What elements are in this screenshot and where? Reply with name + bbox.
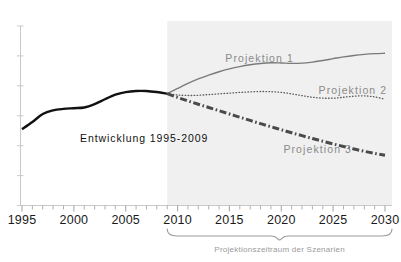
x-tick-label: 1995 <box>8 213 37 227</box>
x-tick-label: 2010 <box>163 213 192 227</box>
x-tick-label: 2030 <box>371 213 400 227</box>
series-annotation-projektion-2: Projektion 2 <box>319 84 388 96</box>
x-tick-label: 2000 <box>60 213 89 227</box>
projection-period-shading <box>167 21 392 205</box>
x-tick-label: 2005 <box>111 213 140 227</box>
projection-period-brace <box>167 229 392 240</box>
series-annotation-projektion-3: Projektion 3 <box>283 143 352 155</box>
x-axis-tick-labels: 19952000200520102015202020252030 <box>8 213 400 227</box>
x-tick-label: 2015 <box>215 213 244 227</box>
x-axis-ticks <box>22 206 385 212</box>
chart-container: 19952000200520102015202020252030 Entwick… <box>0 0 401 262</box>
series-annotation-projektion-1: Projektion 1 <box>225 52 294 64</box>
projection-period-caption: Projektionszeitraum der Szenarien <box>214 245 345 254</box>
x-tick-label: 2025 <box>319 213 348 227</box>
x-tick-label: 2020 <box>267 213 296 227</box>
line-chart: 19952000200520102015202020252030 Entwick… <box>0 0 401 262</box>
series-annotation-entwicklung-1995-2009: Entwicklung 1995-2009 <box>80 132 208 144</box>
series-line-entwicklung-1995-2009 <box>22 91 167 129</box>
